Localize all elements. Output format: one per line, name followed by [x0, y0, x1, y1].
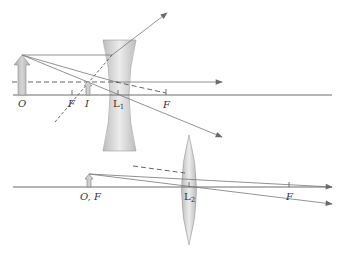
- label-object-top: O: [18, 98, 26, 109]
- object-arrow-bottom: [85, 174, 93, 187]
- object-arrow-top: [14, 55, 30, 95]
- label-image: I: [84, 98, 90, 109]
- convex-lens-l2: [182, 135, 197, 245]
- ray-parallel-bottom: [89, 174, 332, 187]
- label-lens-l1-sub: 1: [120, 103, 124, 111]
- top-diagram: O F I L1 F: [12, 13, 332, 151]
- label-lens-l2-sub: 2: [191, 196, 195, 204]
- label-object-focal-bottom: O, F: [80, 191, 102, 202]
- bottom-diagram: O, F L2 F: [13, 135, 332, 245]
- optics-diagram: O F I L1 F O, F L2 F: [0, 0, 338, 257]
- dashed-ray-bottom: [133, 166, 185, 173]
- ray-diverging-up: [112, 13, 167, 55]
- ray-lower-bottom: [89, 174, 332, 204]
- label-focal-right-bottom: F: [285, 191, 294, 202]
- ray-to-focal: [22, 55, 116, 82]
- label-focal-right: F: [162, 99, 171, 110]
- label-focal-left: F: [67, 98, 76, 109]
